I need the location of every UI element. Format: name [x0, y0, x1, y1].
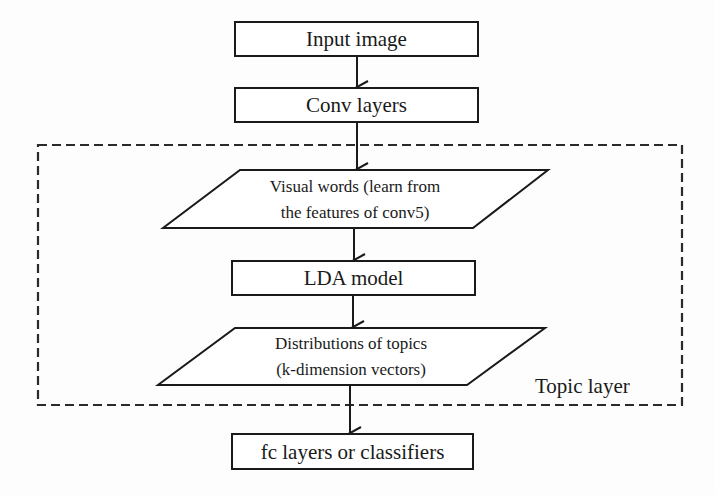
input-image-label: Input image: [235, 27, 478, 51]
topic-layer-label: Topic layer: [535, 374, 675, 398]
topic-distributions-label-line1: Distributions of topics: [196, 333, 506, 354]
visual-words-label-line2: the features of conv5): [200, 202, 510, 223]
topic-distributions-label-line2: (k-dimension vectors): [196, 359, 506, 380]
lda-model-label: LDA model: [232, 266, 475, 290]
flowchart-graphics: [0, 0, 715, 495]
visual-words-label-line1: Visual words (learn from: [200, 176, 510, 197]
flowchart-canvas: Input image Conv layers Visual words (le…: [0, 0, 715, 495]
fc-layers-label: fc layers or classifiers: [232, 440, 473, 464]
conv-layers-label: Conv layers: [235, 93, 478, 117]
